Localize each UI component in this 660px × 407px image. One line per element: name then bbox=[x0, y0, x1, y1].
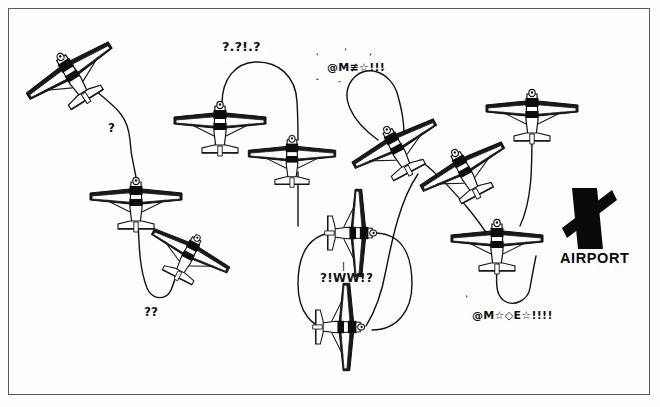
airport-label: AIRPORT bbox=[560, 250, 629, 266]
tether-mid-right-curve bbox=[366, 174, 418, 326]
aircraft-right-upper bbox=[486, 89, 578, 144]
tether-big-arc-left bbox=[347, 71, 404, 140]
tether-left-mid-to-hook bbox=[138, 218, 180, 298]
aircraft-upper-left bbox=[18, 28, 130, 128]
aircraft-right-lower bbox=[451, 219, 543, 274]
question-marks-lower-left: ?? bbox=[144, 306, 158, 318]
tether-top-center-arc bbox=[222, 62, 298, 140]
crossed-runways-icon bbox=[562, 188, 617, 249]
aircraft-top-center bbox=[174, 101, 266, 156]
grawlix-center: ?!WW!? bbox=[320, 272, 373, 284]
tether-loop-right bbox=[372, 233, 412, 330]
impact-tick: | bbox=[342, 262, 345, 271]
aircraft-mid-loop-top bbox=[325, 189, 377, 276]
grawlix-top-center: ?.?!.? bbox=[222, 40, 260, 53]
grawlix-bottom-right: @M☆◇E☆!!!! bbox=[472, 310, 553, 321]
aircraft-left-mid bbox=[90, 177, 182, 232]
aircraft-center-upper bbox=[248, 135, 335, 187]
question-mark-left: ? bbox=[108, 122, 115, 134]
cartoon-page: AIRPORT ??.?!.?@M≢☆!!!???!WW!?@M☆◇E☆!!!!… bbox=[0, 0, 660, 407]
aircraft-mid-loop-bot bbox=[313, 283, 365, 370]
